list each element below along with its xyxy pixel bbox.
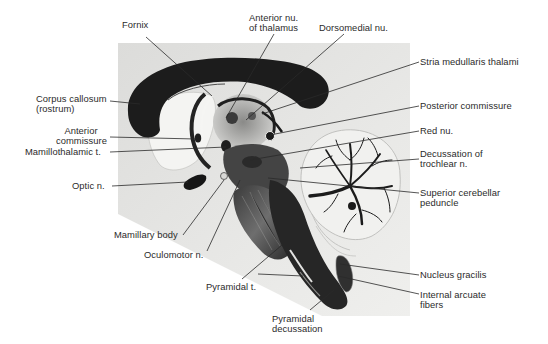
label-anterior-nu-thalamus-line2: of thalamus bbox=[249, 23, 298, 34]
label-internal-arcuate-line2: fibers bbox=[420, 300, 443, 311]
label-mamillothalamic-t: Mamillothalamic t. bbox=[25, 147, 101, 158]
label-pyramidal-decussation-line2: decussation bbox=[272, 324, 323, 335]
label-red-nu: Red nu. bbox=[420, 126, 453, 137]
label-anterior-commissure-line2: commissure bbox=[56, 136, 107, 147]
label-fornix: Fornix bbox=[122, 20, 148, 31]
label-oculomotor-n: Oculomotor n. bbox=[144, 250, 204, 261]
anatomy-figure: Fornix Anterior nu. of thalamus Dorsomed… bbox=[0, 0, 548, 344]
label-optic-n: Optic n. bbox=[72, 181, 105, 192]
label-decussation-trochlear-line2: trochlear n. bbox=[420, 159, 468, 170]
posterior-commissure-shape bbox=[266, 132, 275, 141]
label-stria-medullaris-thalami: Stria medullaris thalami bbox=[420, 57, 519, 68]
label-nucleus-gracilis: Nucleus gracilis bbox=[420, 270, 486, 281]
label-corpus-callosum-line2: (rostrum) bbox=[36, 104, 74, 115]
mamillary-body-shape bbox=[221, 173, 228, 180]
label-superior-cerebellar-peduncle-line2: peduncle bbox=[420, 198, 458, 209]
label-mamillary-body: Mamillary body bbox=[114, 230, 178, 241]
label-dorsomedial-nu: Dorsomedial nu. bbox=[319, 23, 388, 34]
anterior-commissure-shape bbox=[195, 134, 201, 143]
label-pyramidal-t: Pyramidal t. bbox=[206, 282, 256, 293]
label-posterior-commissure: Posterior commissure bbox=[420, 101, 512, 112]
